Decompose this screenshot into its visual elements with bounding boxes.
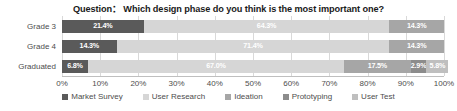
- legend-label: User Test: [361, 92, 395, 102]
- y-axis-category-labels: Grade 3 Grade 4 Graduated: [0, 16, 60, 76]
- bar-row: 6.8%67.0%17.5%2.9%5.8%: [62, 60, 444, 73]
- plot-area: 21.4%64.3%14.3%14.3%71.4%14.3%6.8%67.0%1…: [62, 16, 444, 76]
- bar-segment: 64.3%: [144, 20, 390, 33]
- category-label: Grade 4: [0, 40, 60, 53]
- x-axis-tick-label: 40%: [207, 77, 223, 90]
- legend-label: Prototyping: [292, 92, 332, 102]
- x-axis-tick-label: 20%: [130, 77, 146, 90]
- bar-segment-value-label: 14.3%: [407, 22, 426, 29]
- bar-row: 21.4%64.3%14.3%: [62, 20, 444, 33]
- bar-segment-value-label: 67.0%: [206, 62, 225, 69]
- bar-row: 14.3%71.4%14.3%: [62, 40, 444, 53]
- chart-legend: Market SurveyUser ResearchIdeationProtot…: [0, 92, 457, 102]
- bar-segment-value-label: 64.3%: [257, 22, 276, 29]
- bar-segment: 14.3%: [389, 40, 444, 53]
- bar-segment-value-label: 6.8%: [67, 62, 83, 69]
- bar-rows: 21.4%64.3%14.3%14.3%71.4%14.3%6.8%67.0%1…: [62, 16, 444, 76]
- bar-segment: 71.4%: [117, 40, 390, 53]
- x-axis-tick-label: 60%: [283, 77, 299, 90]
- bar-segment: 67.0%: [88, 60, 344, 73]
- x-axis-tick-label: 80%: [360, 77, 376, 90]
- legend-swatch-icon: [143, 94, 149, 100]
- x-axis-tick-label: 100%: [434, 77, 454, 90]
- x-axis-tick-label: 50%: [245, 77, 261, 90]
- legend-swatch-icon: [225, 94, 231, 100]
- legend-label: Market Survey: [71, 92, 123, 102]
- legend-swatch-icon: [352, 94, 358, 100]
- bar-segment-value-label: 21.4%: [93, 22, 112, 29]
- bar-segment-value-label: 14.3%: [80, 42, 99, 49]
- legend-swatch-icon: [283, 94, 289, 100]
- legend-swatch-icon: [62, 94, 68, 100]
- stacked-bar-chart: Question： Which design phase do you thin…: [0, 0, 457, 111]
- category-label: Graduated: [0, 60, 60, 73]
- legend-item[interactable]: User Research: [143, 92, 205, 102]
- bar-segment: 17.5%: [344, 60, 411, 73]
- bar-segment-value-label: 71.4%: [243, 42, 262, 49]
- x-axis-tick-label: 0%: [56, 77, 68, 90]
- bar-segment: 5.8%: [426, 60, 448, 73]
- legend-item[interactable]: Market Survey: [62, 92, 123, 102]
- legend-label: Ideation: [234, 92, 262, 102]
- legend-item[interactable]: Ideation: [225, 92, 262, 102]
- x-axis-tick-label: 30%: [169, 77, 185, 90]
- legend-item[interactable]: User Test: [352, 92, 395, 102]
- bar-segment-value-label: 2.9%: [411, 62, 427, 69]
- chart-title: Question： Which design phase do you thin…: [0, 1, 457, 15]
- bar-segment-value-label: 14.3%: [407, 42, 426, 49]
- bar-segment-value-label: 17.5%: [368, 62, 387, 69]
- bar-segment: 2.9%: [411, 60, 427, 73]
- bar-segment: 14.3%: [62, 40, 117, 53]
- bar-segment-value-label: 5.8%: [430, 62, 446, 69]
- x-axis-tick-label: 90%: [398, 77, 414, 90]
- category-label: Grade 3: [0, 20, 60, 33]
- bar-segment: 6.8%: [62, 60, 88, 73]
- x-axis-tick-labels: 0%10%20%30%40%50%60%70%80%90%100%: [62, 77, 444, 90]
- legend-item[interactable]: Prototyping: [283, 92, 332, 102]
- legend-label: User Research: [152, 92, 205, 102]
- x-axis-tick-label: 70%: [321, 77, 337, 90]
- bar-segment: 21.4%: [62, 20, 144, 33]
- bar-segment: 14.3%: [389, 20, 444, 33]
- x-axis-tick-label: 10%: [92, 77, 108, 90]
